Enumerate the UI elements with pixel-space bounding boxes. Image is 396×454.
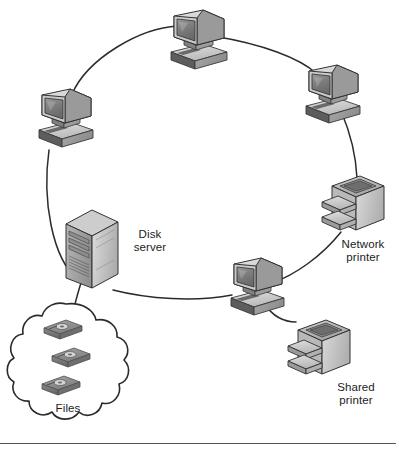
- label-files: Files: [38, 402, 98, 415]
- label-disk-server: Disk server: [112, 228, 188, 254]
- crt-monitor: [174, 10, 224, 45]
- crt-monitor: [309, 65, 358, 99]
- shared-printer[interactable]: [288, 320, 350, 374]
- workstation-top[interactable]: [171, 10, 227, 69]
- ring-segment-top-right: [213, 36, 317, 74]
- disk-server[interactable]: [66, 210, 118, 288]
- ring-segment-bottom-server: [113, 290, 232, 299]
- crt-monitor: [234, 258, 282, 291]
- ring-segment-right-printer: [341, 111, 357, 178]
- workstation-left[interactable]: [39, 89, 93, 147]
- ring-network-diagram: Disk server Network printer Shared print…: [0, 0, 396, 454]
- network-printer[interactable]: [322, 176, 384, 230]
- label-network-printer: Network printer: [330, 238, 396, 264]
- ring-segment-left-top: [72, 26, 178, 94]
- workstation-right[interactable]: [306, 65, 360, 123]
- crt-monitor: [42, 89, 91, 123]
- label-shared-printer: Shared printer: [322, 381, 390, 407]
- workstation-bottom[interactable]: [231, 258, 284, 315]
